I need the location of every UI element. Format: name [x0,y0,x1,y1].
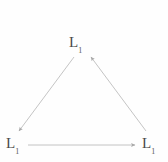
node-label-bottom-left-base: L [6,135,15,151]
cycle-diagram-figure: L1 L1 L1 [0,0,168,162]
node-label-bottom-right: L1 [142,136,155,154]
edge-top-to-bottom-left [19,57,74,131]
node-label-bottom-left: L1 [6,136,19,154]
node-label-bottom-right-base: L [142,135,151,151]
node-label-top-base: L [69,34,78,50]
node-label-top-subscript: 1 [78,46,82,55]
node-label-top: L1 [69,35,82,53]
node-label-bottom-right-subscript: 1 [151,147,155,156]
edge-bottom-right-to-top [91,57,146,131]
node-label-bottom-left-subscript: 1 [15,147,19,156]
